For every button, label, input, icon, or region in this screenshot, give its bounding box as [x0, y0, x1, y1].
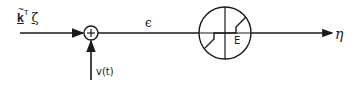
- nonlinearity-curve-right: [225, 17, 246, 33]
- transpose-superscript: T: [24, 8, 29, 17]
- diagram-canvas: [0, 0, 361, 87]
- disturbance-label: v(t): [96, 67, 114, 77]
- tilde-mark: ~: [18, 5, 24, 15]
- k-vector-symbol: ~k: [17, 11, 24, 25]
- zeta-vector-symbol: ζ: [32, 10, 39, 25]
- nonlinearity-label: E: [234, 36, 240, 46]
- error-label: ϵ: [145, 17, 152, 29]
- block-diagram: ~kTζ ϵ v(t) E η: [0, 0, 361, 87]
- input-label: ~kTζ: [17, 11, 39, 24]
- nonlinearity-curve-left: [205, 33, 225, 48]
- output-label: η: [335, 27, 343, 41]
